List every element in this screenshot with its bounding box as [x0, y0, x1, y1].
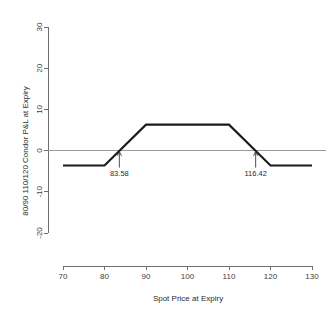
x-tick-label: 130 — [305, 272, 319, 281]
x-tick-label: 120 — [264, 272, 278, 281]
condor-payoff-chart: -20-100102030 80/90 110/120 Condor P&L a… — [0, 0, 336, 319]
x-tick-label: 100 — [181, 272, 195, 281]
x-tick-label: 110 — [223, 272, 236, 281]
y-tick-label: -10 — [35, 185, 44, 197]
y-tick-label: 20 — [35, 63, 44, 72]
x-tick-label: 70 — [59, 272, 68, 281]
x-axis-title: Spot Price at Expiry — [153, 294, 223, 303]
x-tick-label: 90 — [142, 272, 151, 281]
annotation-label: 83.58 — [110, 169, 129, 178]
y-tick-label: 10 — [35, 104, 44, 113]
annotation-label: 116.42 — [244, 169, 266, 178]
y-axis-title: 80/90 110/120 Condor P&L at Expiry — [21, 86, 30, 215]
chart-container: -20-100102030 80/90 110/120 Condor P&L a… — [0, 0, 336, 319]
y-tick-label: 0 — [35, 148, 44, 153]
y-tick-label: 30 — [35, 22, 44, 31]
y-tick-label: -20 — [35, 227, 44, 239]
chart-background — [0, 0, 336, 319]
x-tick-label: 80 — [100, 272, 109, 281]
